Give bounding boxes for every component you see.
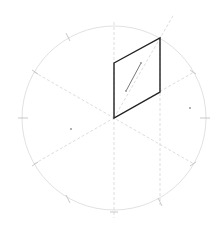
point-dot	[70, 128, 72, 130]
inner-segment	[126, 63, 141, 91]
point-dot	[140, 62, 142, 64]
point-dot	[189, 107, 191, 109]
diagram-canvas	[0, 0, 224, 233]
point-dot	[125, 90, 127, 92]
guide-line	[114, 14, 174, 118]
point-markers	[70, 62, 191, 130]
